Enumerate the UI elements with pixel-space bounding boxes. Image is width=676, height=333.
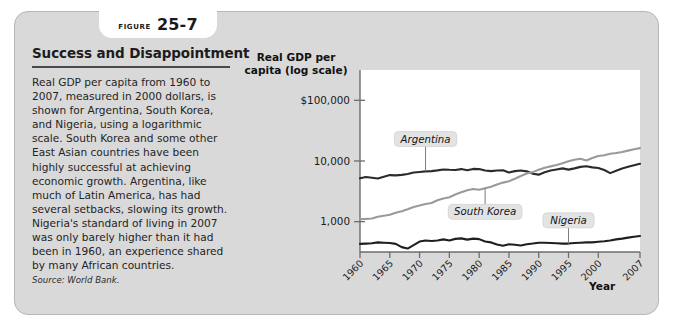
- x-tick-label: 2000: [579, 258, 604, 283]
- figure-tab-word: FIGURE: [118, 19, 151, 31]
- x-tick-label: 2007: [620, 258, 645, 283]
- series-label-south-korea: South Korea: [454, 206, 516, 217]
- series-label-nigeria: Nigeria: [550, 215, 586, 226]
- chart-container: Real GDP per capita (log scale) $100,000…: [237, 42, 649, 304]
- x-tick-label: 1970: [400, 258, 425, 283]
- x-tick-label: 1995: [549, 258, 574, 283]
- plot-area: [360, 70, 640, 252]
- figure-tab-number: 25-7: [157, 15, 198, 34]
- y-tick-label: 10,000: [314, 155, 350, 167]
- series-label-argentina: Argentina: [400, 134, 451, 145]
- x-tick-label: 1960: [340, 258, 365, 283]
- x-tick-label: 1980: [460, 258, 485, 283]
- line-chart: $100,00010,0001,000196019651970197519801…: [237, 42, 649, 304]
- y-tick-label: $100,000: [300, 94, 350, 106]
- x-tick-label: 1975: [430, 258, 455, 283]
- page-title: Success and Disappointment: [32, 45, 237, 61]
- figure-tab: FIGURE 25-7: [99, 11, 217, 38]
- x-axis-title: Year: [589, 280, 615, 292]
- figure-card: FIGURE 25-7 Success and Disappointment R…: [14, 11, 659, 315]
- figure-text-panel: Success and Disappointment Real GDP per …: [32, 45, 237, 285]
- figure-source: Source: World Bank.: [32, 275, 237, 285]
- title-divider: [32, 66, 230, 68]
- x-tick-label: 1990: [519, 258, 544, 283]
- x-tick-label: 1985: [489, 258, 514, 283]
- y-tick-label: 1,000: [320, 215, 350, 227]
- figure-description: Real GDP per capita from 1960 to 2007, m…: [32, 75, 232, 272]
- x-tick-label: 1965: [370, 258, 395, 283]
